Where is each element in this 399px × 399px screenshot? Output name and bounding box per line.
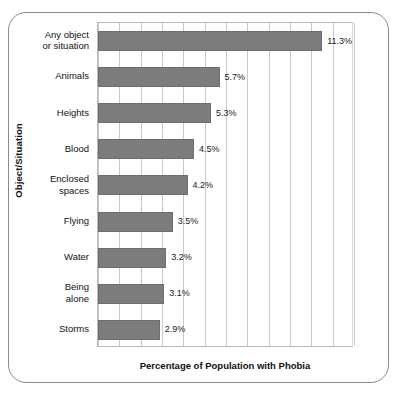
bar-value-label: 4.5% xyxy=(199,145,220,154)
bar-row: 5.3% xyxy=(98,95,352,131)
bar-value-label: 11.3% xyxy=(327,37,352,46)
bar[interactable] xyxy=(98,31,322,51)
bar[interactable] xyxy=(98,320,160,340)
bar[interactable] xyxy=(98,67,220,87)
category-label-line: spaces xyxy=(0,185,89,197)
chart-figure: Object/Situation Any objector situationA… xyxy=(0,0,399,399)
x-axis-title: Percentage of Population with Phobia xyxy=(97,360,353,371)
category-label-line: Being xyxy=(0,281,89,293)
page-edge-artifact xyxy=(6,391,186,398)
bar[interactable] xyxy=(98,284,164,304)
category-label-line: Blood xyxy=(0,143,89,155)
category-label: Blood xyxy=(0,143,89,155)
bar-row: 3.5% xyxy=(98,204,352,240)
bar[interactable] xyxy=(98,103,211,123)
category-label: Any objector situation xyxy=(0,29,89,52)
bar-row: 4.2% xyxy=(98,167,352,203)
category-label-line: Flying xyxy=(0,215,89,227)
bar-value-label: 3.2% xyxy=(171,253,192,262)
category-label-line: Heights xyxy=(0,107,89,119)
bar-value-label: 3.1% xyxy=(169,289,190,298)
bar-row: 4.5% xyxy=(98,131,352,167)
category-label: Flying xyxy=(0,215,89,227)
bar-value-label: 5.3% xyxy=(216,109,237,118)
bar-row: 5.7% xyxy=(98,59,352,95)
bar[interactable] xyxy=(98,175,188,195)
bar-value-label: 5.7% xyxy=(225,73,246,82)
category-label: Heights xyxy=(0,107,89,119)
category-label-line: or situation xyxy=(0,40,89,52)
bar-value-label: 4.2% xyxy=(193,181,214,190)
category-label: Animals xyxy=(0,70,89,82)
bar-row: 11.3% xyxy=(98,23,352,59)
category-axis-labels: Any objector situationAnimalsHeightsBloo… xyxy=(0,22,93,347)
category-label: Water xyxy=(0,251,89,263)
category-label: Beingalone xyxy=(0,281,89,304)
bar[interactable] xyxy=(98,139,194,159)
bar-row: 2.9% xyxy=(98,312,352,348)
category-label: Storms xyxy=(0,323,89,335)
bar-row: 3.1% xyxy=(98,276,352,312)
category-label-line: Water xyxy=(0,251,89,263)
bar-rows: 11.3%5.7%5.3%4.5%4.2%3.5%3.2%3.1%2.9% xyxy=(98,23,352,346)
bar-value-label: 3.5% xyxy=(178,217,199,226)
category-label-line: alone xyxy=(0,293,89,305)
bar-row: 3.2% xyxy=(98,240,352,276)
plot-area: 11.3%5.7%5.3%4.5%4.2%3.5%3.2%3.1%2.9% xyxy=(97,22,353,347)
category-label: Enclosedspaces xyxy=(0,173,89,196)
bar[interactable] xyxy=(98,212,173,232)
category-label-line: Storms xyxy=(0,323,89,335)
category-label-line: Any object xyxy=(0,29,89,41)
bar-value-label: 2.9% xyxy=(165,325,186,334)
category-label-line: Enclosed xyxy=(0,173,89,185)
category-label-line: Animals xyxy=(0,70,89,82)
bar[interactable] xyxy=(98,248,166,268)
